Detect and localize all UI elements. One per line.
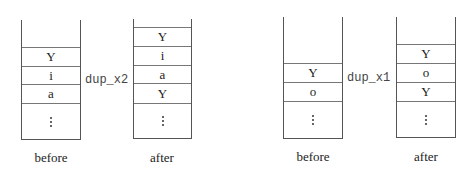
cell-value: Y [158,86,167,102]
stack-cell: Y [22,47,80,66]
stack-continuation [397,101,455,137]
stack-continuation [284,101,342,138]
stack-cell: Y [134,27,191,46]
vertical-ellipsis-icon [162,116,164,126]
dup-x1-after-stack: Y o Y [396,17,456,138]
operation-label: dup_x1 [347,71,390,85]
stack-cell: Y [134,83,191,103]
stack-cell: o [284,82,342,101]
cell-value: a [48,86,54,102]
cell-value: Y [158,29,167,45]
cell-value: Y [421,84,430,100]
stack-continuation [134,103,191,138]
cell-value: Y [46,49,55,65]
dup-x1-before-stack: Y o [283,17,343,139]
stack-cell: i [22,66,80,84]
stack-continuation [22,103,80,139]
vertical-ellipsis-icon [50,117,52,127]
stack-cell: a [22,84,80,103]
cell-value: i [161,48,165,64]
operation-label: dup_x2 [85,73,128,87]
after-caption: after [386,149,466,165]
before-caption: before [11,150,91,166]
cell-value: o [423,65,430,81]
stack-cell: Y [284,63,342,82]
stack-cell: Y [397,82,455,101]
cell-value: o [310,84,317,100]
stack-cell: i [134,46,191,65]
cell-value: i [49,68,53,84]
dup-x2-after-stack: Y i a Y [133,19,192,139]
vertical-ellipsis-icon [425,115,427,125]
cell-value: a [160,67,166,83]
after-caption: after [122,150,202,166]
vertical-ellipsis-icon [312,115,314,125]
stack-cell: o [397,63,455,82]
before-caption: before [273,149,353,165]
dup-x2-before-stack: Y i a [21,20,81,140]
cell-value: Y [421,46,430,62]
stack-cell: a [134,65,191,83]
cell-value: Y [308,65,317,81]
stack-cell: Y [397,44,455,63]
